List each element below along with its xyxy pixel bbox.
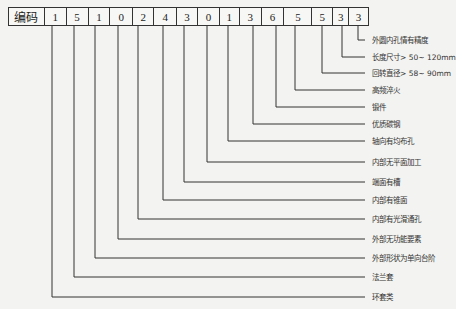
connector-line — [138, 26, 365, 219]
meaning-label: 锻件 — [372, 103, 386, 112]
meaning-label: 轴向有均布孔 — [372, 137, 414, 146]
meaning-label: 外部无功能要素 — [372, 235, 421, 244]
connector-line — [118, 26, 365, 239]
connector-line — [184, 26, 365, 182]
meaning-label: 外圆内孔情有精度 — [372, 36, 428, 45]
meaning-label: 端面有槽 — [372, 178, 400, 187]
meaning-label: 内部无平面加工 — [372, 158, 421, 167]
meaning-label: 内部有光滑通孔 — [372, 215, 421, 224]
connector-line — [276, 26, 365, 107]
connector-line — [163, 26, 365, 200]
meaning-label: 高频淬火 — [372, 86, 400, 95]
connector-line — [295, 26, 365, 90]
connector-line — [253, 26, 365, 124]
meaning-label: 优质碳钢 — [372, 120, 400, 129]
meaning-label: 环套类 — [372, 293, 393, 302]
connector-line — [342, 26, 365, 57]
connector-line — [207, 26, 365, 162]
meaning-label: 法兰套 — [372, 273, 393, 282]
meaning-label: 外部形状为单向台阶 — [372, 254, 435, 263]
meaning-label: 长度尺寸> 50~ 120mm — [372, 53, 456, 62]
connector-line — [358, 26, 365, 40]
meaning-label: 回转直径> 58~ 90mm — [372, 69, 451, 78]
connector-line — [322, 26, 365, 73]
connector-line — [95, 26, 365, 258]
meaning-label: 内部有锥面 — [372, 196, 407, 205]
